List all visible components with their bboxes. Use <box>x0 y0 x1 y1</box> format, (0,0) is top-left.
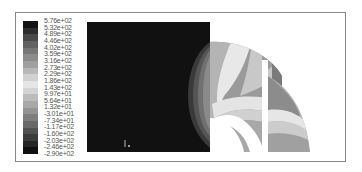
contour-far <box>266 70 316 155</box>
gap-strip <box>262 60 268 155</box>
contour-plot <box>0 0 362 172</box>
